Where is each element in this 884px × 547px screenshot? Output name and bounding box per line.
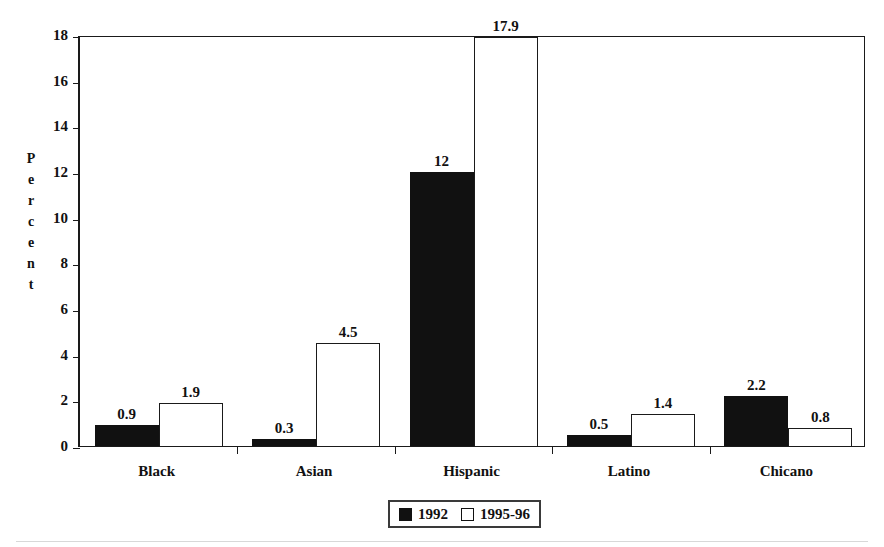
x-axis-category-label: Hispanic <box>443 462 500 480</box>
filled-square-icon <box>399 508 412 521</box>
y-axis-tick-label: 10 <box>32 211 68 226</box>
plot-area: 0.91.90.34.51217.90.51.42.20.8 <box>78 36 865 447</box>
y-axis-tick-mark <box>73 265 80 266</box>
bar-value-label: 0.8 <box>811 409 830 425</box>
hollow-square-icon <box>461 508 474 521</box>
bar: 17.9 <box>474 37 538 446</box>
y-axis-tick-mark <box>73 448 80 449</box>
y-axis-tick-mark <box>73 311 80 312</box>
bar-value-label: 0.9 <box>117 406 136 422</box>
x-axis-category-label: Latino <box>608 462 651 480</box>
bar-value-label: 17.9 <box>492 18 518 34</box>
bar: 4.5 <box>316 343 380 446</box>
y-axis-tick-mark <box>73 37 80 38</box>
y-axis-tick-mark <box>73 174 80 175</box>
bar-value-label: 0.5 <box>590 416 609 432</box>
y-axis-tick-label: 8 <box>32 256 68 271</box>
legend-item: 1992 <box>399 506 448 522</box>
y-axis-tick-label: 18 <box>32 28 68 43</box>
chart-legend: 19921995-96 <box>388 500 541 528</box>
bar-value-label: 1.9 <box>181 384 200 400</box>
y-axis-tick-label: 6 <box>32 302 68 317</box>
y-axis-tick-label: 0 <box>32 439 68 454</box>
x-axis-tick-mark <box>710 446 711 454</box>
y-axis-tick-mark <box>73 128 80 129</box>
bar: 1.4 <box>631 414 695 446</box>
bar: 1.9 <box>159 403 223 446</box>
bar-value-label: 12 <box>434 153 449 169</box>
y-axis-tick-mark <box>73 357 80 358</box>
bar: 0.3 <box>252 439 316 446</box>
y-axis-tick-mark <box>73 402 80 403</box>
x-axis-category-label: Chicano <box>760 462 813 480</box>
x-axis-tick-mark <box>237 446 238 454</box>
y-axis-tick-label: 2 <box>32 393 68 408</box>
bar-chart: Percent 024681012141618 0.91.90.34.51217… <box>0 0 884 547</box>
y-axis-tick-mark <box>73 220 80 221</box>
bar: 0.8 <box>788 428 852 446</box>
legend-label: 1995-96 <box>480 506 530 522</box>
legend-item: 1995-96 <box>461 506 530 522</box>
y-axis-tick-label: 4 <box>32 348 68 363</box>
y-axis-tick-labels: 024681012141618 <box>22 0 68 547</box>
y-axis-tick-mark <box>73 83 80 84</box>
bar: 0.9 <box>95 425 159 446</box>
x-axis-category-label: Black <box>138 462 175 480</box>
x-axis-tick-mark <box>552 446 553 454</box>
legend-label: 1992 <box>418 506 448 522</box>
bar-value-label: 2.2 <box>747 377 766 393</box>
x-axis-tick-mark <box>395 446 396 454</box>
y-axis-tick-label: 16 <box>32 74 68 89</box>
y-axis-tick-label: 12 <box>32 165 68 180</box>
bar: 0.5 <box>567 435 631 446</box>
bar: 2.2 <box>724 396 788 446</box>
bar-value-label: 1.4 <box>654 395 673 411</box>
x-axis-category-label: Asian <box>296 462 333 480</box>
bar-value-label: 4.5 <box>339 324 358 340</box>
bar-value-label: 0.3 <box>275 420 294 436</box>
y-axis-tick-label: 14 <box>32 119 68 134</box>
scan-artifact <box>16 541 868 542</box>
bar: 12 <box>410 172 474 446</box>
